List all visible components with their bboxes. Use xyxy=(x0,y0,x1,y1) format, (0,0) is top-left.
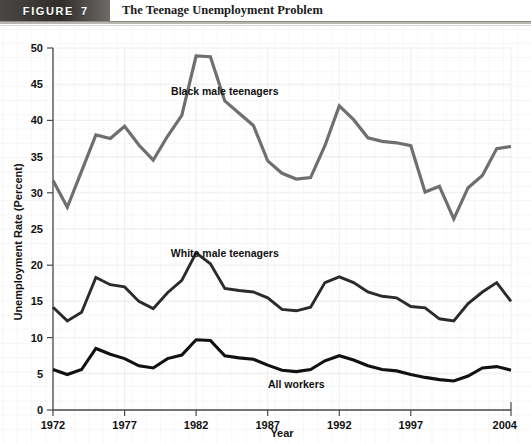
series-label-all-workers: All workers xyxy=(268,378,325,390)
chart-series-lines xyxy=(53,56,511,381)
line-chart: 05101520253035404550 1972197719821987199… xyxy=(0,27,531,443)
figure-tab-number: 7 xyxy=(81,5,87,17)
series-label-white-male-teenagers: White male teenagers xyxy=(171,247,279,259)
chart-canvas: 05101520253035404550 1972197719821987199… xyxy=(0,27,531,443)
x-axis-title: Year xyxy=(270,427,294,439)
figure-page: FIGURE 7 The Teenage Unemployment Proble… xyxy=(0,0,531,443)
y-axis-title: Unemployment Rate (Percent) xyxy=(12,163,24,320)
y-tick-label: 10 xyxy=(31,332,43,344)
y-tick-label: 30 xyxy=(31,187,43,199)
x-tick-label: 1997 xyxy=(399,419,423,431)
figure-number-tab: FIGURE 7 xyxy=(0,0,110,21)
header-divider-secondary xyxy=(0,25,531,26)
x-tick-label: 1977 xyxy=(112,419,136,431)
chart-axes xyxy=(47,48,511,416)
y-tick-label: 15 xyxy=(31,295,43,307)
page-title: The Teenage Unemployment Problem xyxy=(122,3,323,18)
y-tick-label: 50 xyxy=(31,42,43,54)
y-tick-label: 40 xyxy=(31,114,43,126)
series-line-white-male-teenagers xyxy=(53,253,511,321)
x-tick-label: 2004 xyxy=(493,419,518,431)
header-divider xyxy=(0,21,531,24)
y-tick-label: 45 xyxy=(31,78,43,90)
figure-tab-label: FIGURE xyxy=(23,5,74,17)
x-tick-label: 1982 xyxy=(184,419,208,431)
figure-title-container: The Teenage Unemployment Problem xyxy=(110,0,531,21)
y-tick-label: 25 xyxy=(31,223,43,235)
series-line-all-workers xyxy=(53,340,511,381)
y-tick-label: 0 xyxy=(37,404,43,416)
x-tick-label: 1992 xyxy=(327,419,351,431)
y-tick-label: 20 xyxy=(31,259,43,271)
series-label-black-male-teenagers: Black male teenagers xyxy=(171,85,279,97)
y-axis-tick-labels: 05101520253035404550 xyxy=(31,42,43,416)
y-tick-label: 35 xyxy=(31,151,43,163)
series-line-black-male-teenagers xyxy=(53,56,511,219)
y-tick-label: 5 xyxy=(37,368,43,380)
figure-header: FIGURE 7 The Teenage Unemployment Proble… xyxy=(0,0,531,21)
x-tick-label: 1972 xyxy=(41,419,65,431)
